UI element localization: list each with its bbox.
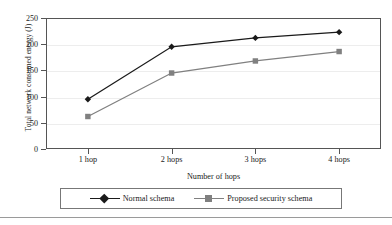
- square-marker-icon: [85, 114, 90, 119]
- x-axis-tick-mark: [339, 149, 340, 154]
- series-line: [88, 32, 339, 99]
- y-axis-tick-label: 200: [12, 40, 38, 49]
- x-axis-tick-mark: [88, 149, 89, 154]
- y-axis-tick-label: 250: [12, 14, 38, 23]
- diamond-marker-icon: [336, 29, 342, 35]
- chart-legend: Normal schemaProposed security schema: [60, 188, 342, 209]
- square-marker-icon: [253, 58, 258, 63]
- x-axis-tick-mark: [172, 149, 173, 154]
- y-axis-tick-label: 50: [12, 118, 38, 127]
- y-axis-tick-label: 0: [12, 145, 38, 154]
- series-1: [85, 29, 343, 102]
- chart-figure: Total network consumed energy (J) 050100…: [0, 0, 392, 225]
- y-axis-tick-labels: 050100150200250: [8, 18, 38, 149]
- series-layer: [46, 18, 381, 149]
- diamond-marker-icon: [85, 96, 91, 102]
- x-axis-tick-labels: 1 hop2 hops3 hops4 hops: [46, 155, 381, 169]
- legend-label: Proposed security schema: [227, 194, 312, 203]
- x-axis-tick-label: 1 hop: [53, 155, 123, 164]
- legend-entry: Normal schema: [90, 194, 175, 203]
- square-marker-icon: [336, 49, 341, 54]
- legend-label: Normal schema: [123, 194, 175, 203]
- x-axis-tick-mark: [255, 149, 256, 154]
- x-axis-title: Number of hops: [46, 172, 381, 181]
- y-axis-tick-label: 150: [12, 66, 38, 75]
- diamond-marker-icon: [168, 44, 174, 50]
- legend-entry: Proposed security schema: [194, 194, 312, 203]
- square-marker-icon: [169, 70, 174, 75]
- series-line: [88, 52, 339, 117]
- series-2: [85, 49, 342, 119]
- square-marker-icon: [205, 195, 212, 202]
- diamond-marker-icon: [99, 194, 108, 203]
- x-axis-tick-label: 2 hops: [137, 155, 207, 164]
- diamond-marker-icon: [252, 35, 258, 41]
- page-rule: [0, 217, 392, 218]
- x-axis-tick-label: 4 hops: [304, 155, 374, 164]
- x-axis-tick-label: 3 hops: [220, 155, 290, 164]
- legend-swatch: [194, 194, 224, 203]
- legend-swatch: [90, 194, 120, 203]
- y-axis-tick-label: 100: [12, 92, 38, 101]
